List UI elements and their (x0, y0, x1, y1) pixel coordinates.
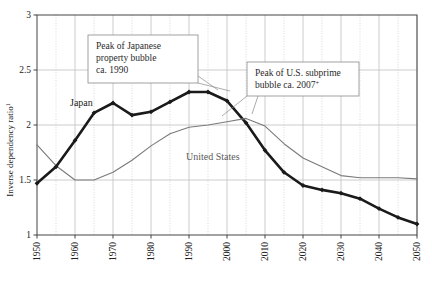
japan-callout-line-3: ca. 1990 (96, 65, 128, 75)
y-tick-label-1: 1 (26, 230, 31, 240)
japan-callout-line-2: property bubble (96, 53, 156, 63)
series-label-united-states: United States (186, 151, 240, 162)
x-tick-label-2040: 2040 (374, 242, 384, 261)
japan-callout-line-1: Peak of Japanese (96, 41, 161, 51)
us-callout-line-1: Peak of U.S. subprime (255, 68, 341, 78)
x-tick-label-1970: 1970 (108, 242, 118, 261)
x-tick-label-1960: 1960 (70, 242, 80, 261)
y-tick-label-1.5: 1.5 (19, 175, 31, 185)
series-label-japan: Japan (70, 97, 93, 108)
y-tick-label-2.5: 2.5 (19, 65, 31, 75)
y-tick-label-2: 2 (26, 120, 31, 130)
x-tick-label-1950: 1950 (32, 242, 42, 261)
x-tick-label-2010: 2010 (260, 242, 270, 261)
x-tick-label-1980: 1980 (146, 242, 156, 261)
x-tick-label-2030: 2030 (336, 242, 346, 261)
us-callout-line-2: bubble ca. 2007+ (255, 79, 319, 90)
x-tick-label-2000: 2000 (222, 242, 232, 261)
chart-background (0, 0, 432, 282)
y-tick-label-3: 3 (26, 10, 31, 20)
x-tick-label-2050: 2050 (412, 242, 422, 261)
x-tick-label-2020: 2020 (298, 242, 308, 261)
y-axis-title: Inverse dependency ratio1 (5, 103, 15, 196)
chart-container: 11.522.53 195019601970198019902000201020… (0, 0, 432, 282)
inverse-dependency-ratio-line-chart: 11.522.53 195019601970198019902000201020… (0, 0, 432, 282)
x-tick-label-1990: 1990 (184, 242, 194, 261)
